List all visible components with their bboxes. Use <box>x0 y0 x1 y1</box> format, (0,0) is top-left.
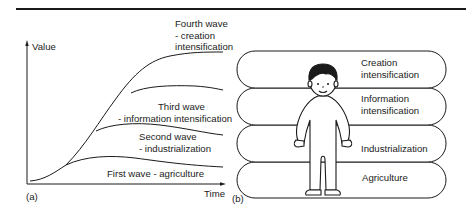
diagram-figure: Value Time (a) Fourth wave - creation in… <box>0 0 475 221</box>
person-ear-left <box>308 81 312 87</box>
first-wave-label: First wave - agriculture <box>107 168 204 179</box>
x-axis-label: Time <box>204 188 225 199</box>
panel-a-label: (a) <box>26 191 38 202</box>
person-right-foot <box>325 190 340 195</box>
layer-information-line1: Information <box>361 93 409 104</box>
fourth-wave-line2: - creation <box>175 30 215 41</box>
y-axis-arrow-icon <box>25 40 28 46</box>
layer-agriculture-label: Agriculture <box>362 172 408 183</box>
second-wave-line2: - industrialization <box>139 143 211 154</box>
third-wave-curve <box>131 86 223 93</box>
x-axis-arrow-icon <box>220 182 226 185</box>
third-wave-line1: Third wave <box>158 101 205 112</box>
first-wave-curve <box>66 156 223 167</box>
person-left-hand <box>294 140 304 147</box>
layer-creation-line2: intensification <box>361 69 419 80</box>
fourth-wave-line3: intensification <box>175 41 233 52</box>
panel-b-label: (b) <box>232 193 244 204</box>
layer-industrialization-label: Industrialization <box>361 143 428 154</box>
person-right-hand <box>342 140 352 147</box>
y-axis-label: Value <box>32 41 56 52</box>
layer-information-line2: intensification <box>361 105 419 116</box>
layer-agriculture-shape <box>237 162 446 198</box>
person-ear-right <box>334 81 338 87</box>
second-wave-line1: Second wave <box>139 131 197 142</box>
third-wave-line2: - information intensification <box>118 113 232 124</box>
person-eye-left <box>317 83 319 85</box>
person-left-foot <box>306 190 321 195</box>
layer-creation-line1: Creation <box>361 57 397 68</box>
fourth-wave-line1: Fourth wave <box>175 18 228 29</box>
person-eye-right <box>327 83 329 85</box>
